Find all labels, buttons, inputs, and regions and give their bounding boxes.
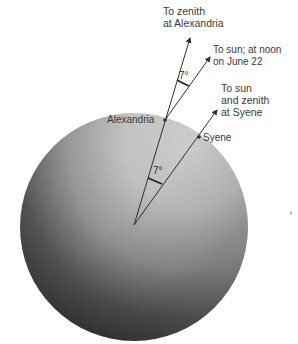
alexandria-label: Alexandria [107,114,154,126]
speck [290,211,292,215]
sun-syene-label: To sun and zenith at Syene [221,82,269,118]
syene-marker [197,135,201,139]
sun-noon-label: To sun; at noon on June 22 [213,44,281,68]
zenith-alexandria-label: To zenith at Alexandria [163,5,224,29]
sun-ray-alexandria-line [165,57,210,120]
alexandria-marker [163,118,167,122]
earth-sphere [20,113,248,341]
top-angle-label: 7° [179,70,189,81]
eratosthenes-diagram: To zenith at Alexandria To sun; at noon … [0,0,298,344]
center-angle-label: 7° [153,165,163,176]
syene-label: Syene [203,132,231,144]
